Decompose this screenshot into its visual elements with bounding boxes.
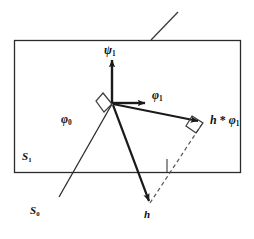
label-h: h — [144, 209, 150, 220]
vector-diagram-figure: ψ1 φ1 φ0 h * φ1 h S1 S0 — [0, 0, 254, 239]
label-psi-1: ψ1 — [104, 44, 116, 56]
h-vector — [113, 105, 149, 201]
plane-normal-tick — [151, 12, 178, 40]
label-point-s0: S0 — [30, 205, 40, 216]
label-phi-0: φ0 — [61, 113, 72, 125]
label-h-star-phi-1: h * φ1 — [210, 114, 239, 126]
label-phi-1: φ1 — [152, 89, 163, 101]
label-plane-s1: S1 — [22, 151, 32, 162]
h-projection-dashed-line — [150, 124, 202, 203]
h-star-phi1-vector — [113, 104, 198, 121]
